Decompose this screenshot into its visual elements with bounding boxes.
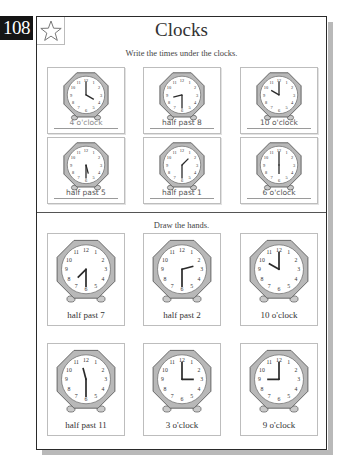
svg-text:1: 1: [285, 150, 287, 155]
svg-text:11: 11: [269, 150, 273, 155]
draw-clock-card[interactable]: 123456789101112 half past 2: [143, 233, 221, 326]
svg-text:4: 4: [198, 386, 201, 392]
svg-text:2: 2: [102, 257, 105, 263]
time-label: 10 o'clock: [241, 310, 317, 320]
draw-instruction: Draw the hands.: [37, 220, 326, 230]
svg-text:12: 12: [84, 148, 88, 153]
svg-text:10: 10: [259, 257, 265, 263]
svg-text:8: 8: [164, 386, 167, 392]
svg-text:3: 3: [104, 266, 107, 272]
svg-text:11: 11: [76, 80, 80, 85]
svg-text:8: 8: [261, 276, 264, 282]
svg-text:6: 6: [181, 396, 184, 402]
time-answer-field[interactable]: 10 o'clock: [247, 117, 311, 129]
svg-text:9: 9: [65, 376, 68, 382]
clock-icon: 123456789101112: [60, 71, 112, 122]
svg-text:2: 2: [295, 367, 298, 373]
svg-text:11: 11: [172, 150, 176, 155]
svg-text:11: 11: [76, 150, 80, 155]
section-divider: [37, 212, 326, 213]
svg-text:2: 2: [198, 367, 201, 373]
time-answer-field[interactable]: half past 1: [150, 187, 214, 199]
time-answer-field[interactable]: half past 5: [54, 187, 118, 199]
draw-clock-card[interactable]: 123456789101112 3 o'clock: [143, 343, 221, 436]
svg-text:1: 1: [94, 359, 97, 365]
clock-icon: 123456789101112: [148, 238, 216, 305]
write-clock-card: 123456789101112 half past 8: [143, 67, 221, 134]
svg-text:9: 9: [161, 266, 164, 272]
svg-text:12: 12: [83, 357, 89, 363]
svg-text:8: 8: [261, 386, 264, 392]
svg-text:4: 4: [102, 386, 105, 392]
page-shadow-right: [328, 22, 333, 455]
svg-text:2: 2: [295, 257, 298, 263]
svg-text:1: 1: [92, 80, 94, 85]
svg-text:11: 11: [266, 249, 272, 255]
page-number: 108: [0, 16, 33, 40]
svg-text:8: 8: [164, 276, 167, 282]
svg-text:10: 10: [66, 257, 72, 263]
clock-icon: 123456789101112: [245, 238, 313, 305]
svg-text:10: 10: [259, 367, 265, 373]
svg-text:2: 2: [198, 257, 201, 263]
clock-icon: 123456789101112: [156, 71, 208, 122]
write-clock-card: 123456789101112 half past 5: [47, 137, 125, 204]
svg-text:7: 7: [75, 393, 78, 399]
svg-text:2: 2: [102, 367, 105, 373]
svg-text:12: 12: [180, 78, 184, 83]
draw-clock-card[interactable]: 123456789101112 10 o'clock: [240, 233, 318, 326]
time-label: half past 2: [144, 310, 220, 320]
clock-icon: 123456789101112: [60, 141, 112, 192]
time-answer-field[interactable]: 4 o'clock: [54, 117, 118, 129]
svg-text:12: 12: [180, 148, 184, 153]
clock-icon: 123456789101112: [245, 348, 313, 415]
svg-text:9: 9: [258, 376, 261, 382]
write-clock-card: 123456789101112 10 o'clock: [240, 67, 318, 134]
svg-text:3: 3: [297, 266, 300, 272]
svg-text:12: 12: [179, 247, 185, 253]
svg-text:7: 7: [171, 283, 174, 289]
svg-text:4: 4: [102, 276, 105, 282]
svg-text:7: 7: [268, 393, 271, 399]
svg-text:2: 2: [98, 85, 100, 90]
time-answer-field[interactable]: half past 8: [150, 117, 214, 129]
svg-text:11: 11: [169, 249, 175, 255]
time-answer-field[interactable]: 6 o'clock: [247, 187, 311, 199]
svg-text:7: 7: [268, 283, 271, 289]
clock-icon: 123456789101112: [52, 238, 120, 305]
draw-clock-card[interactable]: 123456789101112 half past 7: [47, 233, 125, 326]
svg-text:2: 2: [194, 85, 196, 90]
write-instruction: Write the times under the clocks.: [37, 48, 326, 58]
svg-text:5: 5: [190, 393, 193, 399]
svg-text:4: 4: [295, 386, 298, 392]
clock-icon: 123456789101112: [156, 141, 208, 192]
svg-text:11: 11: [73, 249, 79, 255]
svg-text:10: 10: [66, 367, 72, 373]
svg-text:1: 1: [94, 249, 97, 255]
time-label: half past 11: [48, 420, 124, 430]
svg-text:4: 4: [295, 276, 298, 282]
svg-text:5: 5: [287, 393, 290, 399]
svg-text:7: 7: [171, 393, 174, 399]
svg-text:10: 10: [162, 367, 168, 373]
page-title: Clocks: [37, 19, 326, 41]
svg-text:9: 9: [161, 376, 164, 382]
svg-text:1: 1: [188, 150, 190, 155]
svg-text:8: 8: [68, 386, 71, 392]
svg-text:2: 2: [98, 155, 100, 160]
svg-text:1: 1: [188, 80, 190, 85]
write-clock-card: 123456789101112 4 o'clock: [47, 67, 125, 134]
page-shadow-bottom: [42, 450, 333, 455]
draw-clock-card[interactable]: 123456789101112 9 o'clock: [240, 343, 318, 436]
svg-text:5: 5: [287, 283, 290, 289]
svg-text:1: 1: [92, 150, 94, 155]
svg-text:10: 10: [162, 257, 168, 263]
draw-clock-card[interactable]: 123456789101112 half past 11: [47, 343, 125, 436]
time-label: 9 o'clock: [241, 420, 317, 430]
svg-text:11: 11: [172, 80, 176, 85]
svg-text:3: 3: [200, 266, 203, 272]
write-clock-card: 123456789101112 half past 1: [143, 137, 221, 204]
clock-icon: 123456789101112: [52, 348, 120, 415]
svg-text:11: 11: [73, 359, 79, 365]
svg-text:2: 2: [291, 85, 293, 90]
